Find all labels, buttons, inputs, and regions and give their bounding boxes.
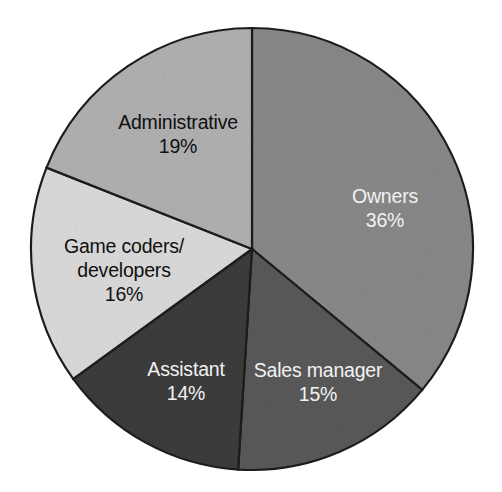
pie-slice-value: 16% (105, 283, 143, 305)
pie-chart-canvas: Owners36%Sales manager15%Assistant14%Gam… (0, 0, 502, 492)
pie-slice-label: Owners (352, 185, 418, 207)
pie-slice-label: Sales manager (254, 359, 383, 381)
pie-slice-label: developers (77, 259, 171, 281)
pie-slice-label: Assistant (147, 358, 225, 380)
pie-slice-label: Administrative (118, 111, 238, 133)
pie-slice-value: 19% (159, 135, 197, 157)
pie-slice-value: 15% (299, 383, 337, 405)
pie-chart-figure: Owners36%Sales manager15%Assistant14%Gam… (0, 0, 502, 492)
pie-slice-value: 14% (167, 382, 205, 404)
pie-slice-label: Game coders/ (64, 235, 185, 257)
pie-slice-value: 36% (366, 209, 404, 231)
